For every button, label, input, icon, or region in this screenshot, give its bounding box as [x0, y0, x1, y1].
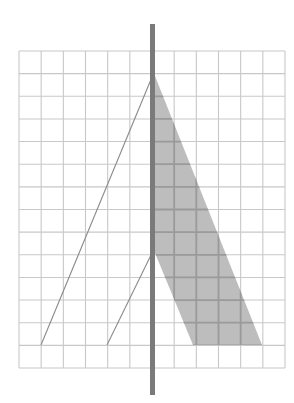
shaded-region	[155, 76, 262, 345]
diagonal-lines	[41, 77, 152, 345]
diagram-canvas	[0, 0, 294, 403]
diagonal-line-1	[41, 77, 152, 345]
diagram-svg	[0, 0, 294, 403]
vertical-pole	[150, 24, 155, 395]
